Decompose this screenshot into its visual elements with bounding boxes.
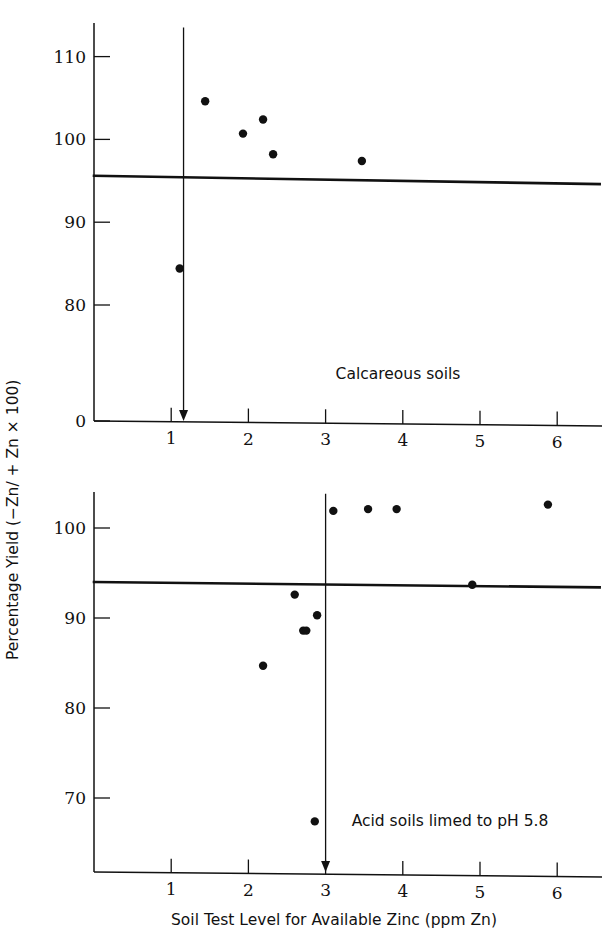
bottom-arrowhead-icon: [321, 861, 330, 872]
y-tick-label: 100: [54, 129, 86, 149]
top-x-axis-spine: [94, 421, 602, 426]
x-tick-label: 1: [166, 879, 177, 899]
y-tick-label: 70: [64, 788, 86, 808]
data-point: [311, 817, 319, 825]
x-axis-title: Soil Test Level for Available Zinc (ppm …: [171, 911, 497, 929]
data-point: [239, 129, 247, 137]
x-tick-label: 2: [243, 429, 254, 449]
data-point: [364, 505, 372, 513]
top-panel-annotation: Calcareous soils: [336, 365, 461, 383]
x-tick-label: 2: [243, 880, 254, 900]
data-point: [392, 505, 400, 513]
data-point: [259, 662, 267, 670]
top-data-points: [175, 97, 366, 273]
bottom-y-ticks: [94, 528, 110, 798]
figure-container: Percentage Yield (−Zn/ + Zn × 100) 08090…: [0, 0, 608, 933]
x-tick-label: 6: [552, 883, 563, 903]
bottom-panel-annotation: Acid soils limed to pH 5.8: [352, 812, 549, 830]
y-axis-title: Percentage Yield (−Zn/ + Zn × 100): [4, 380, 22, 660]
panel-acid-soils: 708090100 123456 Acid soils limed to pH …: [54, 492, 602, 903]
data-point: [329, 507, 337, 515]
x-tick-label: 1: [166, 428, 177, 448]
y-tick-label: 100: [54, 518, 86, 538]
x-tick-label: 5: [475, 431, 486, 451]
bottom-y-tick-labels: 708090100: [54, 518, 86, 808]
data-point: [468, 581, 476, 589]
x-tick-label: 6: [552, 432, 563, 452]
x-tick-label: 3: [320, 429, 331, 449]
data-point: [259, 115, 267, 123]
data-point: [175, 264, 183, 272]
y-tick-label: 0: [75, 411, 86, 431]
x-tick-label: 5: [475, 882, 486, 902]
top-x-tick-labels: 123456: [166, 428, 563, 452]
bottom-data-points: [259, 500, 552, 825]
y-tick-label: 110: [54, 47, 86, 67]
top-arrowhead-icon: [179, 410, 188, 421]
y-tick-label: 90: [64, 212, 86, 232]
top-reference-line: [94, 176, 600, 184]
x-tick-label: 3: [320, 880, 331, 900]
data-point: [302, 626, 310, 634]
bottom-reference-line: [94, 582, 600, 587]
y-tick-label: 80: [64, 295, 86, 315]
data-point: [358, 157, 366, 165]
data-point: [313, 611, 321, 619]
bottom-x-tick-labels: 123456: [166, 879, 563, 903]
scatter-figure: Percentage Yield (−Zn/ + Zn × 100) 08090…: [0, 0, 608, 933]
bottom-x-axis-spine: [94, 872, 602, 877]
x-tick-label: 4: [397, 881, 408, 901]
panel-calcareous: 08090100110 123456 Calcareous soils: [54, 23, 602, 452]
y-tick-label: 90: [64, 608, 86, 628]
data-point: [269, 150, 277, 158]
data-point: [544, 500, 552, 508]
y-tick-label: 80: [64, 698, 86, 718]
data-point: [201, 97, 209, 105]
top-y-tick-labels: 08090100110: [54, 47, 86, 431]
x-tick-label: 4: [397, 430, 408, 450]
top-y-ticks: [94, 57, 110, 421]
data-point: [291, 590, 299, 598]
